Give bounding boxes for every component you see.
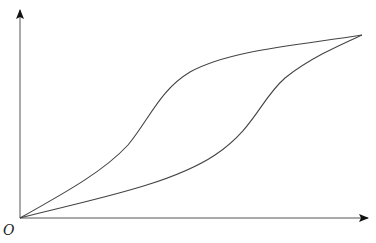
diagram-canvas: O: [0, 0, 376, 243]
diagram-svg: [0, 0, 376, 243]
upper-curve: [20, 35, 362, 218]
lower-curve: [20, 35, 362, 218]
origin-label: O: [3, 222, 14, 238]
